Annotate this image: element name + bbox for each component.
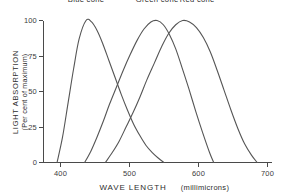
- x-tick-labels: 400 500 600 700: [54, 169, 274, 178]
- chart-canvas: LIGHT ABSORPTION (Per cent of maximum) 0…: [0, 0, 284, 194]
- series-annotations: Blue coneGreen coneRed cone: [68, 0, 215, 4]
- cone-response-curves: [57, 19, 257, 162]
- y-axis-label-group: LIGHT ABSORPTION (Per cent of maximum): [11, 50, 29, 134]
- x-axis-label-units: (millimicrons): [181, 183, 230, 192]
- y-tick-label-100: 100: [24, 16, 37, 25]
- x-tick-label-600: 600: [192, 169, 205, 178]
- x-tick-marks: [61, 163, 268, 168]
- x-axis-label: WAVE LENGTH: [99, 183, 166, 192]
- x-tick-label-700: 700: [261, 169, 274, 178]
- x-tick-label-500: 500: [123, 169, 136, 178]
- series-label-blue-cone: Blue cone: [68, 0, 104, 4]
- x-axis-title-group: WAVE LENGTH (millimicrons): [99, 183, 229, 192]
- y-tick-label-50: 50: [28, 87, 37, 96]
- series-label-red-cone: Red cone: [180, 0, 215, 4]
- y-tick-label-75: 75: [28, 52, 37, 61]
- y-axis-label: LIGHT ABSORPTION: [11, 50, 20, 134]
- y-tick-marks: [39, 21, 43, 163]
- y-tick-label-0: 0: [33, 158, 37, 167]
- cone-absorption-chart: LIGHT ABSORPTION (Per cent of maximum) 0…: [0, 0, 284, 194]
- curve-blue-cone: [57, 19, 164, 162]
- y-tick-label-25: 25: [28, 123, 37, 132]
- curve-green-cone: [85, 20, 214, 162]
- x-tick-label-400: 400: [54, 169, 67, 178]
- curve-red-cone: [105, 20, 257, 162]
- series-label-green-cone: Green cone: [136, 0, 179, 4]
